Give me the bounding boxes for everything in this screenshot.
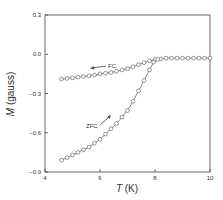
zfc-point <box>76 150 80 154</box>
zfc-point <box>109 127 113 131</box>
y-axis-title: M (gauss) <box>5 72 16 116</box>
fc-point <box>87 74 91 78</box>
zfc-label: ZFC <box>86 123 98 129</box>
fc-point <box>203 56 207 60</box>
fc-point <box>126 67 130 71</box>
zfc-point <box>71 153 75 157</box>
fc-point <box>109 71 113 75</box>
zfc-point <box>120 115 124 119</box>
zfc-point <box>82 148 86 152</box>
fc-point <box>142 61 146 65</box>
x-tick-label: 4 <box>43 175 47 181</box>
zfc-point <box>152 60 156 64</box>
fc-point <box>137 63 141 67</box>
axis-ticks: 468100.30.0−0.3−0.6−0.9 <box>29 12 214 181</box>
zfc-point <box>156 58 160 62</box>
y-tick-label: −0.9 <box>29 169 42 175</box>
y-tick-label: −0.3 <box>29 91 42 97</box>
fc-point <box>76 75 80 79</box>
fc-point <box>181 56 185 60</box>
x-tick-label: 8 <box>153 175 157 181</box>
fc-point <box>93 73 97 77</box>
plot-frame <box>45 15 210 172</box>
zfc-point <box>131 99 135 103</box>
zfc-annotation: ZFC <box>86 115 111 129</box>
zfc-point <box>93 141 97 145</box>
fc-point <box>115 69 119 73</box>
fc-point <box>186 56 190 60</box>
zfc-point <box>148 68 152 72</box>
zfc-arrow-icon <box>100 117 109 125</box>
fc-point <box>208 56 212 60</box>
x-axis-title: T (K) <box>116 183 138 194</box>
zfc-point <box>65 156 69 160</box>
fc-point <box>120 68 124 72</box>
zfc-point <box>115 122 119 126</box>
zfc-point <box>98 137 102 141</box>
zfc-point <box>87 145 91 149</box>
fc-annotation: FC <box>90 63 117 70</box>
x-tick-label: 6 <box>98 175 102 181</box>
fc-series <box>60 56 212 81</box>
zfc-point <box>126 109 130 113</box>
x-tick-label: 10 <box>207 175 214 181</box>
fc-point <box>131 65 135 69</box>
series-layer <box>60 56 212 162</box>
fc-label: FC <box>108 63 117 69</box>
y-tick-label: 0.0 <box>33 51 42 57</box>
zfc-point <box>142 79 146 83</box>
fc-point <box>60 77 64 81</box>
fc-point <box>104 71 108 75</box>
fc-point <box>148 59 152 63</box>
y-tick-label: 0.3 <box>33 12 42 18</box>
fc-point <box>164 56 168 60</box>
fc-point <box>170 56 174 60</box>
zfc-point <box>104 132 108 136</box>
fc-point <box>98 72 102 76</box>
fc-arrowhead-icon <box>90 66 94 69</box>
fc-point <box>175 56 179 60</box>
fc-point <box>65 77 69 81</box>
zfc-point <box>137 89 141 93</box>
fc-point <box>82 75 86 79</box>
y-tick-label: −0.6 <box>29 130 42 136</box>
fc-point <box>192 56 196 60</box>
fc-point <box>71 76 75 80</box>
zfc-point <box>60 158 64 162</box>
zfc-line <box>62 60 158 161</box>
magnetization-chart: 468100.30.0−0.3−0.6−0.9 T (K) M (gauss) … <box>0 0 223 200</box>
fc-point <box>197 56 201 60</box>
